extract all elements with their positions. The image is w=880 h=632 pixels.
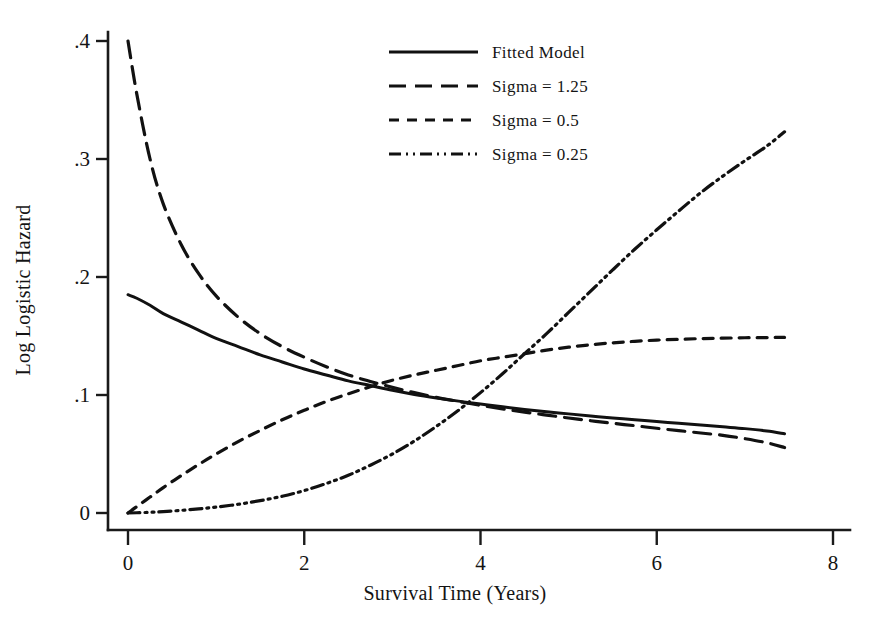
- x-tick-label: 2: [299, 551, 310, 575]
- y-tick-label: 0: [80, 501, 91, 525]
- y-tick-label: .1: [74, 383, 90, 407]
- curve-sigma-0-25: [128, 132, 785, 513]
- x-tick-label: 0: [123, 551, 134, 575]
- y-tick-label: .2: [74, 265, 90, 289]
- y-axis-title: Log Logistic Hazard: [12, 204, 35, 375]
- chart-container: 0.1.2.3.4 02468 Log Logistic Hazard Surv…: [0, 0, 880, 632]
- x-axis-title: Survival Time (Years): [363, 582, 546, 605]
- x-tick-label: 4: [475, 551, 486, 575]
- axes: [108, 32, 850, 530]
- curve-sigma-1-25: [128, 41, 785, 448]
- x-tick-label: 8: [828, 551, 839, 575]
- legend-label: Sigma = 0.5: [492, 111, 579, 130]
- y-tick-label: .4: [74, 29, 90, 53]
- y-tick-label: .3: [74, 147, 90, 171]
- legend-label: Fitted Model: [492, 43, 585, 62]
- log-logistic-hazard-chart: 0.1.2.3.4 02468 Log Logistic Hazard Surv…: [0, 0, 880, 632]
- legend-label: Sigma = 0.25: [492, 145, 588, 164]
- legend-label: Sigma = 1.25: [492, 77, 588, 96]
- data-curves: [128, 41, 785, 513]
- x-tick-label: 6: [652, 551, 663, 575]
- x-axis-ticks: 02468: [123, 530, 839, 575]
- y-axis-ticks: 0.1.2.3.4: [74, 29, 108, 525]
- legend: Fitted ModelSigma = 1.25Sigma = 0.5Sigma…: [389, 43, 588, 164]
